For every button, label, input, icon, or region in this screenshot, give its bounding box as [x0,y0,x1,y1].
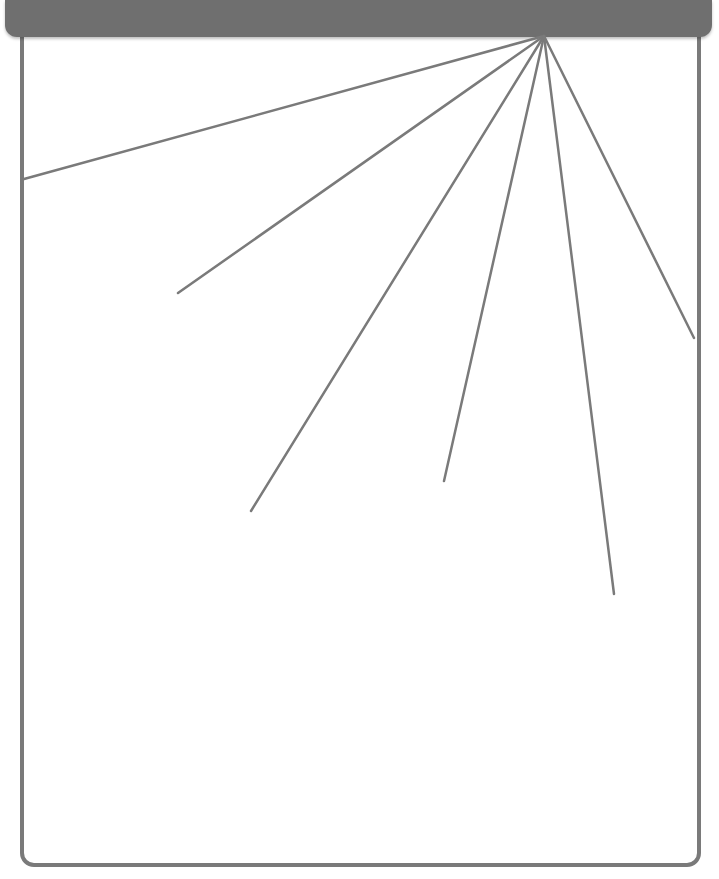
ray-line-6 [544,36,694,338]
ray-line-3 [251,36,544,511]
rays-layer [0,0,719,879]
ray-line-1 [24,36,544,179]
ray-line-4 [444,36,544,481]
ray-line-5 [544,36,614,594]
ray-line-2 [178,36,544,293]
